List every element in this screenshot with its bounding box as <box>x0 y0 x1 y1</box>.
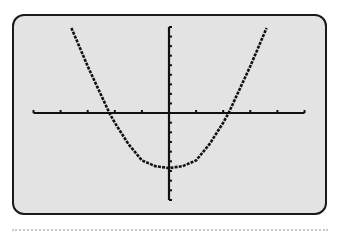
axes <box>34 27 305 200</box>
dotted-divider <box>12 229 328 231</box>
parabola-plot <box>0 0 342 236</box>
